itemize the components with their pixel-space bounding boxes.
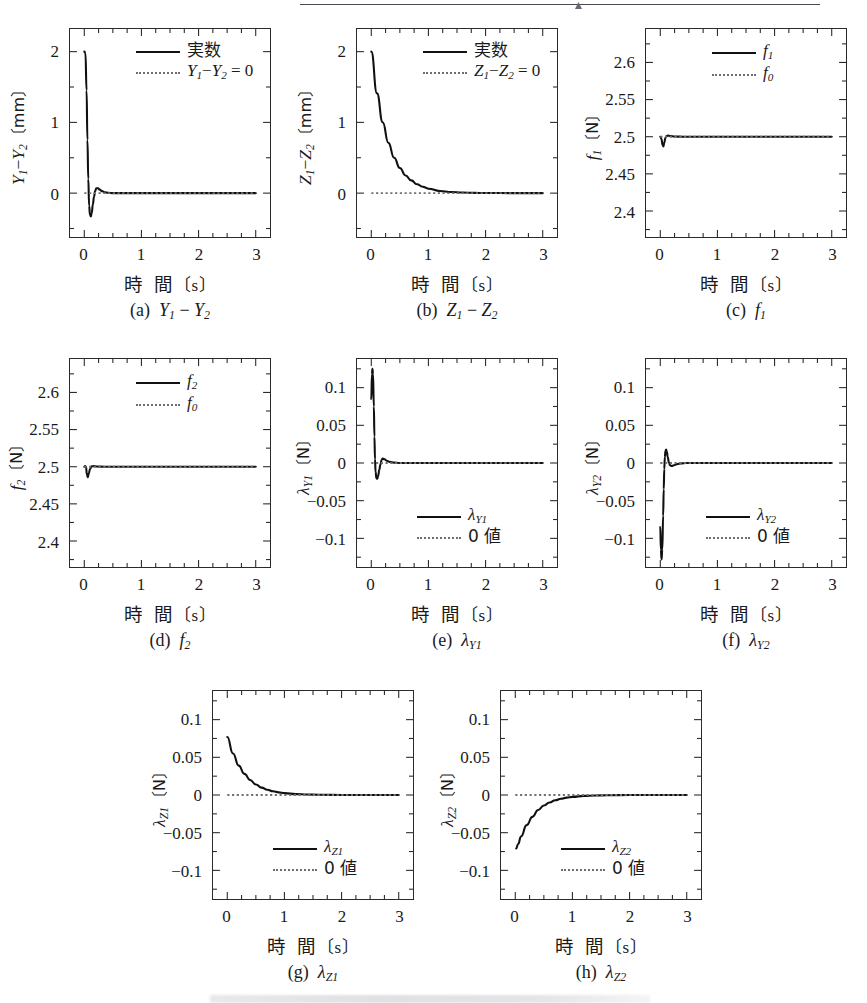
subplot-caption: (h) λZ2: [576, 962, 626, 985]
legend-item: Y1−Y2 = 0: [136, 62, 253, 81]
y-tick-label: 0.1: [325, 378, 346, 395]
x-tick-label: 3: [828, 246, 837, 263]
y-tick-label: 0.05: [605, 417, 635, 434]
y-tick-label: 0.05: [460, 749, 490, 766]
subplot-caption: (e) λY1: [432, 630, 481, 653]
x-tick-label: 2: [482, 576, 491, 593]
legend-solid-swatch-icon: [136, 377, 180, 387]
legend-dotted-swatch-icon: [136, 67, 180, 77]
y-axis-title: Y1−Y2〔mm〕: [5, 81, 29, 185]
legend-label: Y1−Y2 = 0: [187, 62, 253, 81]
x-tick-label: 3: [252, 576, 261, 593]
y-tick-label: 1: [338, 114, 347, 131]
legend: f1f0: [712, 42, 773, 84]
x-tick-label: 0: [366, 246, 375, 263]
subplot-caption: (f) λY2: [722, 630, 769, 653]
legend: λY10 値: [417, 506, 501, 545]
legend-label: 実数: [187, 42, 221, 59]
x-axis-title: 時間〔s〕: [411, 600, 503, 626]
legend-dotted-swatch-icon: [712, 69, 756, 79]
legend-label: f0: [763, 64, 773, 83]
legend-item: f1: [712, 42, 773, 61]
legend: λZ10 値: [273, 838, 357, 877]
legend-solid-swatch-icon: [423, 46, 467, 56]
subplot-caption: (a) Y1 − Y2: [130, 300, 210, 323]
legend: f2f0: [136, 372, 197, 414]
legend-label: λY1: [468, 506, 487, 525]
x-tick-label: 0: [655, 576, 664, 593]
x-tick-label: 2: [771, 246, 780, 263]
legend-label: f2: [187, 372, 197, 391]
subplot-caption: (d) f2: [150, 630, 191, 653]
legend-dotted-swatch-icon: [423, 67, 467, 77]
y-axis-title: Z1−Z2〔mm〕: [292, 81, 316, 185]
y-tick-label: 2.55: [605, 91, 635, 108]
x-tick-label: 2: [195, 576, 204, 593]
subplot-caption: (g) λZ1: [288, 962, 338, 985]
legend-label: 0 値: [612, 860, 645, 877]
legend: 実数Y1−Y2 = 0: [136, 42, 253, 81]
y-axis-title: λZ1〔N〕: [146, 763, 170, 827]
x-tick-label: 0: [79, 246, 88, 263]
legend-dotted-swatch-icon: [417, 532, 461, 542]
legend-label: f1: [763, 42, 773, 61]
x-tick-label: 0: [366, 576, 375, 593]
legend-item: 実数: [423, 42, 540, 59]
y-tick-label: 2: [51, 42, 60, 59]
x-tick-label: 0: [222, 908, 231, 925]
legend-label: λY2: [757, 506, 776, 525]
y-tick-label: −0.1: [171, 863, 202, 880]
legend-item: 0 値: [706, 528, 790, 545]
y-axis-title: λZ2〔N〕: [434, 763, 458, 827]
legend-item: 0 値: [561, 860, 645, 877]
x-tick-label: 3: [828, 576, 837, 593]
x-tick-label: 2: [626, 908, 635, 925]
x-tick-label: 2: [482, 246, 491, 263]
legend-label: λZ2: [612, 838, 631, 857]
x-tick-label: 1: [568, 908, 577, 925]
legend-item: 0 値: [417, 528, 501, 545]
legend-label: 0 値: [324, 860, 357, 877]
y-tick-label: 0: [627, 455, 636, 472]
legend-label: 実数: [474, 42, 508, 59]
legend-label: Z1−Z2 = 0: [474, 62, 540, 81]
legend-item: λZ2: [561, 838, 645, 857]
x-tick-label: 0: [79, 576, 88, 593]
subplot-caption: (b) Z1 − Z2: [416, 300, 497, 323]
x-tick-label: 1: [713, 576, 722, 593]
legend-dotted-swatch-icon: [273, 864, 317, 874]
legend-item: Z1−Z2 = 0: [423, 62, 540, 81]
legend-item: f0: [712, 64, 773, 83]
legend-item: f0: [136, 394, 197, 413]
x-tick-label: 2: [338, 908, 347, 925]
y-tick-label: 0: [482, 787, 491, 804]
legend-item: λY2: [706, 506, 790, 525]
y-tick-label: 2.4: [38, 533, 59, 550]
x-axis-title: 時間〔s〕: [124, 270, 216, 296]
legend-label: λZ1: [324, 838, 343, 857]
y-tick-label: 0: [338, 455, 347, 472]
y-tick-label: 2.45: [29, 496, 59, 513]
y-tick-label: −0.05: [451, 825, 490, 842]
legend: 実数Z1−Z2 = 0: [423, 42, 540, 81]
y-axis-title: f1〔N〕: [579, 106, 603, 161]
legend-item: 0 値: [273, 860, 357, 877]
x-tick-label: 1: [137, 576, 146, 593]
y-tick-label: 2.55: [29, 421, 59, 438]
x-axis-title: 時間〔s〕: [555, 932, 647, 958]
legend-label: f0: [187, 394, 197, 413]
y-tick-label: 1: [51, 114, 60, 131]
legend-solid-swatch-icon: [712, 47, 756, 57]
legend-item: λZ1: [273, 838, 357, 857]
x-axis-title: 時間〔s〕: [700, 270, 792, 296]
legend-dotted-swatch-icon: [706, 532, 750, 542]
y-tick-label: 2.5: [614, 128, 635, 145]
y-tick-label: −0.1: [459, 863, 490, 880]
y-tick-label: 0.1: [181, 710, 202, 727]
y-tick-label: 0: [51, 185, 60, 202]
x-tick-label: 0: [655, 246, 664, 263]
y-axis-title: f2〔N〕: [3, 436, 27, 491]
legend-label: 0 値: [468, 528, 501, 545]
legend-dotted-swatch-icon: [136, 399, 180, 409]
x-tick-label: 2: [195, 246, 204, 263]
